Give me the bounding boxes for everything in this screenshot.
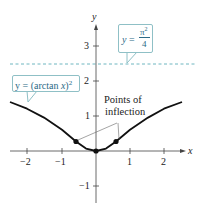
asym-num: π2 <box>140 26 148 37</box>
x-tick-label: −1 <box>55 157 66 167</box>
x-tick-label: 2 <box>161 157 166 167</box>
y-tick-label: 2 <box>84 76 89 86</box>
inflection-point-right <box>113 139 118 144</box>
inflection-label-line2: inflection <box>105 107 145 118</box>
curve-callout: y = (arctan x)2 <box>12 75 80 92</box>
y-tick-label: −1 <box>79 181 90 191</box>
inflection-point-left <box>73 139 78 144</box>
minimum-point <box>93 148 98 153</box>
leader-line-left <box>78 123 117 140</box>
x-axis-label: x <box>188 146 192 156</box>
plot-area <box>0 0 202 212</box>
y-axis-arrow-icon <box>94 24 98 30</box>
x-tick-label: 1 <box>127 157 132 167</box>
y-axis-label: y <box>92 12 96 22</box>
y-tick-label: 3 <box>84 41 89 51</box>
asym-den: 4 <box>142 39 147 49</box>
chart: y x −2 −1 1 2 3 2 1 −1 y = (arctan x)2 y… <box>0 0 202 212</box>
asymptote-callout: y = π2 4 <box>118 24 153 53</box>
asymptote-callout-pointer <box>127 52 137 63</box>
x-tick-label: −2 <box>20 157 31 167</box>
x-axis-arrow-icon <box>180 149 186 153</box>
y-tick-label: 1 <box>85 111 90 121</box>
fraction-bar <box>139 37 150 38</box>
curve-label-exp: 2 <box>69 79 73 87</box>
asym-lhs: y = <box>122 34 135 45</box>
leader-line-right <box>118 123 119 139</box>
inflection-label-line1: Points of <box>104 95 142 106</box>
curve-label-text: y = (arctan <box>15 80 61 91</box>
